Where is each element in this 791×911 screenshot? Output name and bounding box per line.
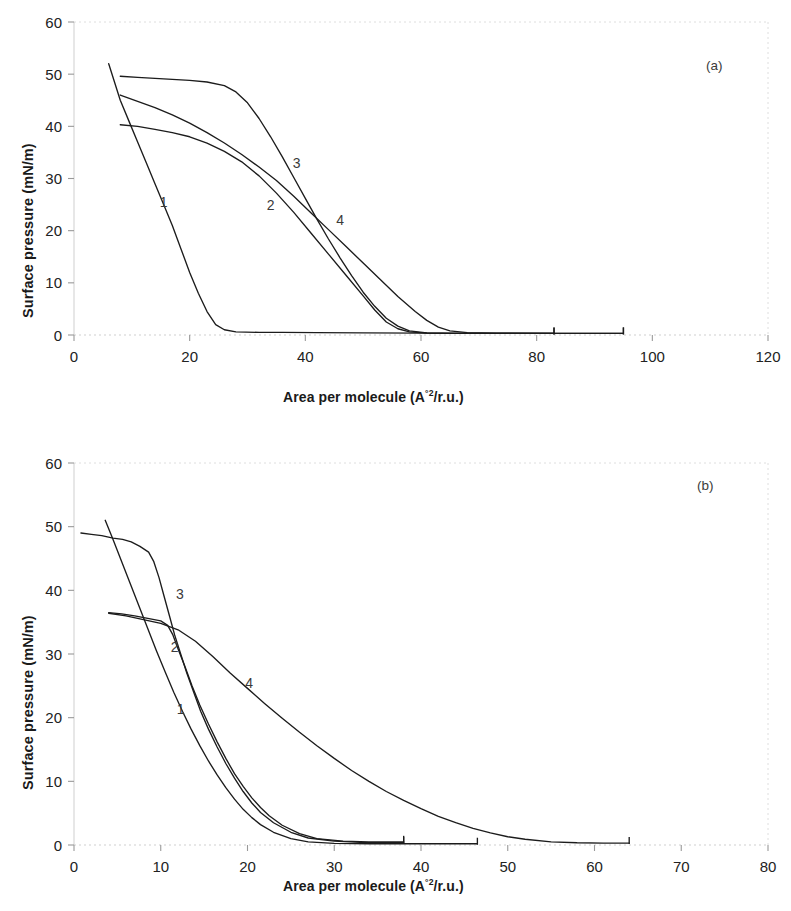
x-tick-label: 30 xyxy=(326,858,343,875)
x-axis-label-suffix: /r.u.) xyxy=(434,389,464,405)
chart-panel-b: 0102030405060010203040506070801234 Surfa… xyxy=(0,440,791,911)
x-axis-label-text: Area per molecule (A xyxy=(283,878,425,894)
x-tick-label: 10 xyxy=(152,858,169,875)
curve-line-1 xyxy=(105,520,477,843)
x-tick-label: 70 xyxy=(673,858,690,875)
x-tick-label: 20 xyxy=(181,348,198,365)
curve-line-3 xyxy=(120,76,554,333)
y-axis-label-a: Surface pressure (mN/m) xyxy=(20,143,36,318)
y-axis-ticks: 0102030405060 xyxy=(45,455,74,854)
x-axis-label-suffix: /r.u.) xyxy=(434,878,464,894)
y-tick-label: 40 xyxy=(45,118,62,135)
y-tick-label: 20 xyxy=(45,709,62,726)
x-axis-label-text: Area per molecule (A xyxy=(283,389,425,405)
x-tick-label: 0 xyxy=(70,858,78,875)
y-tick-label: 10 xyxy=(45,773,62,790)
curve-label-1: 1 xyxy=(177,701,185,717)
y-tick-label: 0 xyxy=(54,327,62,344)
plot-area-b: 0102030405060010203040506070801234 xyxy=(0,440,791,911)
plot-area-a: 01020304050600204060801001201234 xyxy=(0,0,791,440)
curve-label-2: 2 xyxy=(171,639,179,655)
curve-line-4 xyxy=(120,95,623,333)
curve-label-3: 3 xyxy=(293,155,301,171)
x-tick-label: 50 xyxy=(499,858,516,875)
y-tick-label: 60 xyxy=(45,14,62,31)
x-tick-label: 60 xyxy=(413,348,430,365)
x-tick-label: 40 xyxy=(413,858,430,875)
curve-line-2 xyxy=(120,125,554,334)
y-axis-label-b: Surface pressure (mN/m) xyxy=(20,615,36,790)
figure-root: 01020304050600204060801001201234 Surface… xyxy=(0,0,791,911)
axis-frame xyxy=(74,22,768,335)
curve-line-1 xyxy=(109,64,624,334)
y-tick-label: 50 xyxy=(45,518,62,535)
x-axis-label-a: Area per molecule (A°2/r.u.) xyxy=(283,388,464,405)
curve-labels-group: 1234 xyxy=(171,586,254,717)
curve-line-4 xyxy=(109,613,630,843)
x-axis-ticks: 01020304050607080 xyxy=(70,845,777,875)
x-tick-label: 80 xyxy=(528,348,545,365)
y-tick-label: 40 xyxy=(45,582,62,599)
curve-label-4: 4 xyxy=(245,675,253,691)
panel-tag-b: (b) xyxy=(697,478,714,493)
x-tick-label: 20 xyxy=(239,858,256,875)
y-tick-label: 10 xyxy=(45,274,62,291)
x-tick-label: 100 xyxy=(640,348,665,365)
curve-label-2: 2 xyxy=(267,197,275,213)
y-axis-ticks: 0102030405060 xyxy=(45,14,74,344)
curve-label-4: 4 xyxy=(336,212,344,228)
x-tick-label: 0 xyxy=(70,348,78,365)
x-axis-ticks: 020406080100120 xyxy=(70,335,781,365)
curve-label-3: 3 xyxy=(176,586,184,602)
curves-group xyxy=(109,64,624,335)
panel-tag-a: (a) xyxy=(706,58,723,73)
y-tick-label: 60 xyxy=(45,455,62,472)
chart-panel-a: 01020304050600204060801001201234 Surface… xyxy=(0,0,791,440)
curve-label-1: 1 xyxy=(160,194,168,210)
x-axis-label-superscript: °2 xyxy=(425,877,434,887)
y-tick-label: 0 xyxy=(54,837,62,854)
x-axis-label-superscript: °2 xyxy=(425,388,434,398)
x-tick-label: 80 xyxy=(760,858,777,875)
y-tick-label: 30 xyxy=(45,170,62,187)
x-axis-label-b: Area per molecule (A°2/r.u.) xyxy=(283,877,464,894)
curves-group xyxy=(81,520,629,844)
y-tick-label: 20 xyxy=(45,222,62,239)
y-tick-label: 30 xyxy=(45,646,62,663)
x-tick-label: 120 xyxy=(755,348,780,365)
x-tick-label: 40 xyxy=(297,348,314,365)
y-tick-label: 50 xyxy=(45,66,62,83)
x-tick-label: 60 xyxy=(586,858,603,875)
